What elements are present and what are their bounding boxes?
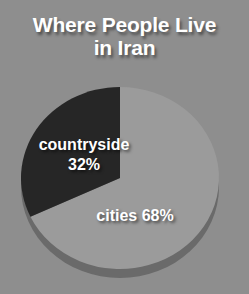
pie-label-cities: cities 68% xyxy=(72,206,198,225)
pie-label-countryside: countryside 32% xyxy=(28,135,140,175)
infographic-pie-chart: Where People Live in Iran countryside 32… xyxy=(0,0,249,294)
